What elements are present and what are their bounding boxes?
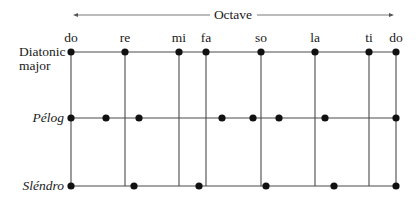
note-dot-pelog bbox=[392, 114, 399, 121]
note-dot-diatonic-major bbox=[175, 48, 182, 55]
note-dot-pelog bbox=[102, 114, 109, 121]
note-dot-diatonic-major bbox=[257, 48, 264, 55]
row-label-major: major bbox=[19, 58, 51, 73]
row-label-diatonic: Diatonic bbox=[19, 44, 66, 59]
note-dot-slendro bbox=[130, 182, 137, 189]
arrow-left-icon bbox=[73, 13, 78, 17]
note-dot-diatonic-major bbox=[311, 48, 318, 55]
degree-label-fa: fa bbox=[201, 30, 212, 45]
scale-comparison-diagram: Octave do re mi fa so la ti do Diatonic … bbox=[0, 0, 418, 201]
note-dot-diatonic-major bbox=[121, 48, 128, 55]
degree-label-re: re bbox=[120, 30, 131, 45]
octave-arrow: Octave bbox=[73, 7, 394, 22]
degree-label-do-octave: do bbox=[389, 30, 403, 45]
degree-label-mi: mi bbox=[172, 30, 187, 45]
note-dot-diatonic-major bbox=[202, 48, 209, 55]
scale-dots bbox=[67, 48, 399, 189]
row-label-slendro: Sléndro bbox=[23, 178, 65, 193]
degree-label-so: so bbox=[255, 30, 267, 45]
note-dot-slendro bbox=[330, 182, 337, 189]
note-dot-diatonic-major bbox=[392, 48, 399, 55]
degree-label-la: la bbox=[310, 30, 320, 45]
note-dot-slendro bbox=[392, 182, 399, 189]
note-dot-diatonic-major bbox=[67, 48, 74, 55]
grid-lines bbox=[71, 52, 396, 186]
note-dot-slendro bbox=[195, 182, 202, 189]
note-dot-pelog bbox=[275, 114, 282, 121]
note-dot-slendro bbox=[67, 182, 74, 189]
degree-labels: do re mi fa so la ti do bbox=[64, 30, 403, 45]
row-label-pelog: Pélog bbox=[32, 110, 65, 125]
note-dot-pelog bbox=[249, 114, 256, 121]
note-dot-diatonic-major bbox=[365, 48, 372, 55]
note-dot-pelog bbox=[67, 114, 74, 121]
note-dot-pelog bbox=[218, 114, 225, 121]
degree-label-do: do bbox=[64, 30, 78, 45]
note-dot-slendro bbox=[262, 182, 269, 189]
octave-label: Octave bbox=[214, 7, 252, 22]
arrow-right-icon bbox=[389, 13, 394, 17]
note-dot-pelog bbox=[135, 114, 142, 121]
row-labels: Diatonic major Pélog Sléndro bbox=[19, 44, 66, 193]
degree-label-ti: ti bbox=[365, 30, 373, 45]
note-dot-pelog bbox=[321, 114, 328, 121]
